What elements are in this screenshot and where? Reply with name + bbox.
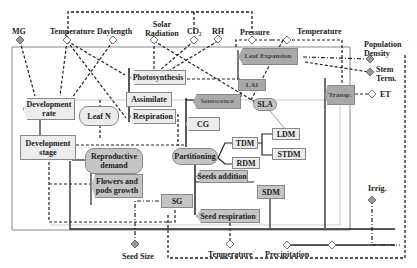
node-rdm: RDM <box>232 157 260 169</box>
node-reproductive-demand: Reproductivedemand <box>85 148 143 174</box>
connection-lines <box>0 0 417 268</box>
node-seeds-addition: Seeds addition <box>196 170 248 183</box>
input-mg: MG <box>12 27 26 36</box>
node-respiration: Respiration <box>130 109 176 124</box>
node-ldm: LDM <box>272 128 300 140</box>
node-seed-respiration: Seed respiration <box>196 209 260 223</box>
input-temperature-right: Temperature <box>297 27 341 36</box>
node-assimilate: Assimilate <box>126 92 172 107</box>
input-co2: CO₂ <box>187 27 201 36</box>
input-rh: RH <box>212 27 224 36</box>
node-tdm: TDM <box>232 137 258 149</box>
input-pressure: Pressure <box>240 28 269 37</box>
node-stdm: STDM <box>272 148 306 160</box>
input-population-density: Population Density <box>364 40 401 58</box>
node-lai: LAI <box>238 79 266 91</box>
input-solar-radiation: Solar Radiation <box>145 20 179 38</box>
node-leaf-n: Leaf N <box>79 106 119 126</box>
input-temperature-bottom: Temperature <box>208 250 252 259</box>
node-sg: SG <box>161 194 193 208</box>
input-precipitation: Precipitation <box>265 250 309 259</box>
node-sdm: SDM <box>257 185 285 199</box>
node-leaf-expansion: Leaf Expansion <box>238 48 298 65</box>
input-irrig: Irrig. <box>368 184 386 193</box>
node-transp: Transp. <box>325 85 355 105</box>
node-flowers-pods-growth: Flowers andpods growth <box>91 174 143 198</box>
node-cg: CG <box>186 117 220 131</box>
input-seed-size: Seed Size <box>122 252 154 261</box>
node-sla: SLA <box>253 98 277 111</box>
node-senescence: Senescence <box>193 94 241 109</box>
node-development-stage: Developmentstage <box>20 135 76 160</box>
input-temperature: Temperature <box>50 27 94 36</box>
input-stem-term: Stem Term. <box>376 65 396 83</box>
input-daylength: Daylength <box>97 27 132 36</box>
input-et: ET <box>380 90 391 99</box>
node-photosynthesis: Photosynthesis <box>130 70 186 85</box>
node-development-rate: Developmentrate <box>23 98 75 120</box>
node-partitioning: Partitioning <box>172 148 218 165</box>
